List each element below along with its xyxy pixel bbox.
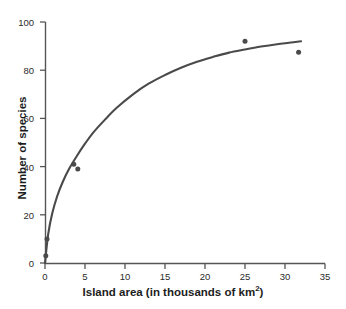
x-axis-title-text: Island area (in thousands of km [83, 286, 256, 298]
xtick-label-5: 5 [82, 271, 87, 282]
y-axis-title: Number of species [16, 68, 28, 228]
xtick-label-30: 30 [280, 271, 291, 282]
data-point [243, 39, 248, 44]
x-tick-marks [45, 264, 325, 270]
data-point [71, 162, 76, 167]
xtick-label-25: 25 [240, 271, 251, 282]
x-axis-title-close: ) [260, 286, 264, 298]
data-point [43, 253, 48, 258]
xtick-label-20: 20 [200, 271, 211, 282]
xtick-label-15: 15 [160, 271, 171, 282]
xtick-label-35: 35 [320, 271, 331, 282]
data-point [75, 167, 80, 172]
data-point [45, 236, 50, 241]
xtick-label-10: 10 [120, 271, 131, 282]
ytick-label-0: 0 [12, 258, 34, 269]
x-axis-title: Island area (in thousands of km2) [0, 286, 346, 298]
ytick-label-100: 100 [12, 17, 34, 28]
plot-canvas [0, 0, 346, 309]
y-tick-marks [40, 22, 46, 263]
xtick-label-0: 0 [42, 271, 47, 282]
data-point [296, 50, 301, 55]
fitted-curve [45, 41, 301, 263]
species-area-chart: 0 20 40 60 80 100 0 5 10 15 20 25 30 35 … [0, 0, 346, 309]
